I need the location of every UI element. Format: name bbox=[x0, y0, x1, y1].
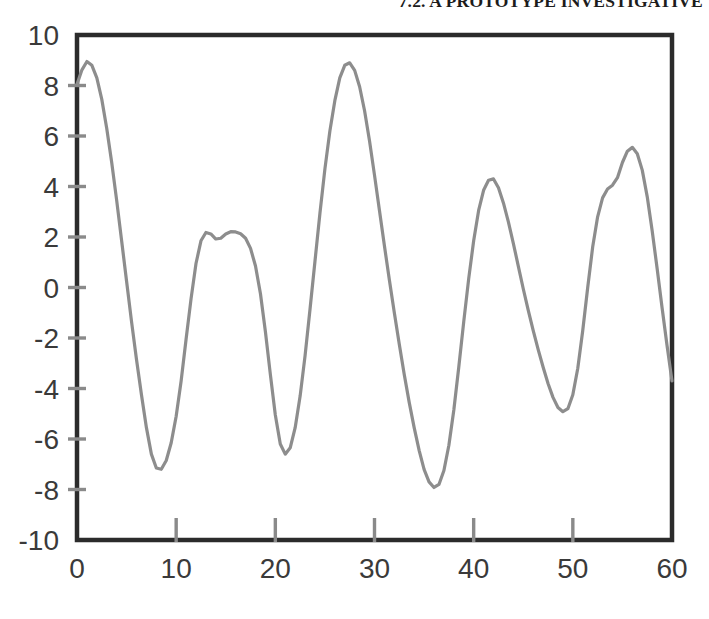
y-tick-label: -10 bbox=[19, 525, 59, 556]
x-tick-label: 30 bbox=[359, 553, 390, 584]
x-tick-label: 0 bbox=[69, 553, 85, 584]
page-header-text: 7.2. A PROTOTYPE INVESTIGATIVE bbox=[399, 0, 703, 11]
y-tick-label: -8 bbox=[34, 475, 59, 506]
x-tick-label: 10 bbox=[161, 553, 192, 584]
figure-container: 1086420-2-4-6-8-10 0102030405060 bbox=[0, 18, 709, 598]
x-tick-label: 60 bbox=[656, 553, 687, 584]
chart-background bbox=[0, 18, 709, 598]
line-chart: 1086420-2-4-6-8-10 0102030405060 bbox=[0, 18, 709, 598]
y-tick-label: 2 bbox=[43, 222, 59, 253]
x-tick-label: 50 bbox=[557, 553, 588, 584]
x-tick-label: 40 bbox=[458, 553, 489, 584]
y-tick-label: 6 bbox=[43, 121, 59, 152]
y-tick-label: 0 bbox=[43, 273, 59, 304]
y-tick-label: 4 bbox=[43, 172, 59, 203]
page-root: 7.2. A PROTOTYPE INVESTIGATIVE 1086420-2… bbox=[0, 0, 709, 619]
y-tick-label: 8 bbox=[43, 71, 59, 102]
x-tick-label: 20 bbox=[260, 553, 291, 584]
y-tick-label: -6 bbox=[34, 424, 59, 455]
page-running-header: 7.2. A PROTOTYPE INVESTIGATIVE bbox=[0, 0, 709, 13]
y-tick-label: -4 bbox=[34, 374, 59, 405]
y-tick-label: 10 bbox=[28, 20, 59, 51]
y-tick-label: -2 bbox=[34, 323, 59, 354]
